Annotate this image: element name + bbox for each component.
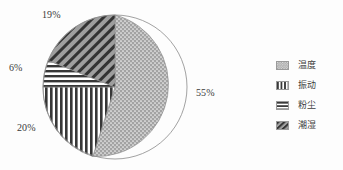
legend-label-temperature: 温度 [298, 61, 316, 70]
pie-chart-figure: 19% 6% 20% 55% 温度 振动 [0, 0, 343, 170]
legend-item-dust: 粉尘 [276, 95, 338, 115]
legend-item-vibration: 振动 [276, 75, 338, 95]
chart-legend: 温度 振动 粉尘 潮湿 [276, 55, 338, 135]
slice-label-humidity: 19% [42, 10, 61, 20]
legend-label-humidity: 潮湿 [298, 121, 316, 130]
legend-swatch-dots-icon [276, 61, 289, 70]
legend-swatch-diagonal-stripes-icon [276, 121, 289, 130]
legend-label-dust: 粉尘 [298, 101, 316, 110]
legend-swatch-horizontal-bars-icon [276, 101, 289, 110]
legend-item-humidity: 潮湿 [276, 115, 338, 135]
slice-label-dust: 6% [9, 63, 23, 73]
slice-label-vibration: 20% [17, 123, 36, 133]
legend-label-vibration: 振动 [298, 81, 316, 90]
slice-label-temperature: 55% [196, 88, 215, 98]
legend-item-temperature: 温度 [276, 55, 338, 75]
legend-swatch-vertical-bars-icon [276, 81, 289, 90]
